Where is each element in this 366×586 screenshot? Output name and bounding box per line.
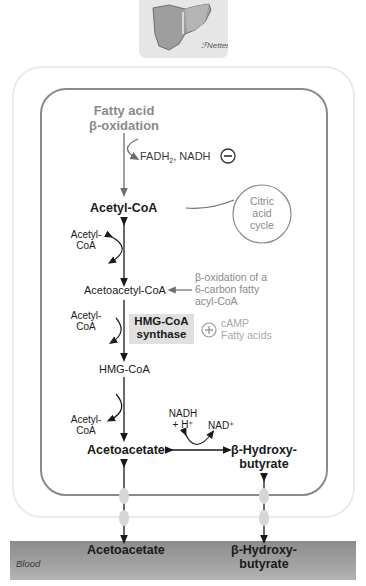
blood-acetoacetate-label: Acetoacetate [87, 543, 165, 557]
label-line: Fatty acids [221, 330, 272, 342]
citric-acid-cycle-label: Citric acid cycle [238, 196, 286, 231]
label-line: Fatty acid [78, 104, 170, 119]
label-line: butyrate [226, 457, 302, 471]
label-line: 6-carbon fatty [195, 284, 267, 296]
label-line: β-Hydroxy- [226, 543, 302, 557]
label-line: Acetyl- [64, 229, 108, 240]
activators-label: cAMP Fatty acids [221, 318, 272, 342]
byproducts-label: FADH2, NADH [140, 150, 211, 165]
label-line: CoA [64, 240, 108, 251]
acetyl-coa-cofactor-3: Acetyl- CoA [64, 414, 108, 436]
beta-hydroxybutyrate-label: β-Hydroxy- butyrate [226, 443, 302, 471]
label-line: NADH [165, 408, 201, 419]
six-carbon-oxidation-note: β-oxidation of a 6-carbon fatty acyl-CoA [195, 272, 267, 307]
pathway-arrows [0, 0, 366, 586]
hmg-coa-label: HMG-CoA [99, 363, 150, 375]
fatty-acid-oxidation-label: Fatty acid β-oxidation [78, 104, 170, 133]
label-line: cycle [238, 220, 286, 232]
acetyl-coa-cofactor-1: Acetyl- CoA [64, 229, 108, 251]
label-line: β-oxidation of a [195, 272, 267, 284]
label-line: cAMP [221, 318, 272, 330]
label-line: acid [238, 208, 286, 220]
label-line: acyl-CoA [195, 296, 267, 308]
label-line: β-Hydroxy- [226, 443, 302, 457]
label-line: CoA [64, 321, 108, 332]
hmg-coa-synthase-label: HMG-CoA synthase [129, 315, 194, 341]
label-line: + H⁺ [165, 419, 201, 430]
nadh-text: , NADH [173, 150, 210, 162]
label-line: synthase [129, 328, 194, 341]
nad-label: NAD⁺ [208, 420, 234, 431]
label-line: Citric [238, 196, 286, 208]
acetyl-coa-cofactor-2: Acetyl- CoA [64, 310, 108, 332]
acetoacetyl-coa-label: Acetoacetyl-CoA [84, 284, 166, 296]
acetoacetate-label: Acetoacetate [87, 443, 165, 457]
blood-label: Blood [16, 559, 40, 570]
acetyl-coa-label: Acetyl-CoA [90, 201, 157, 215]
label-line: Acetyl- [64, 310, 108, 321]
label-line: butyrate [226, 557, 302, 571]
label-line: β-oxidation [78, 119, 170, 134]
nadh-label: NADH + H⁺ [165, 408, 201, 430]
label-line: CoA [64, 425, 108, 436]
blood-beta-hydroxybutyrate-label: β-Hydroxy- butyrate [226, 543, 302, 571]
label-line: HMG-CoA [129, 315, 194, 328]
fadh-text: FADH [140, 150, 169, 162]
label-line: Acetyl- [64, 414, 108, 425]
